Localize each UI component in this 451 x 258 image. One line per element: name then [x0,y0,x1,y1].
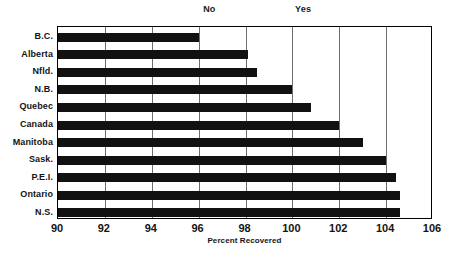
y-axis-label: Ontario [0,189,53,199]
bar [58,103,311,112]
plot-area [57,26,432,219]
bar [58,68,257,77]
y-axis-label: P.E.I. [0,172,53,182]
x-axis-tick-label: 92 [98,222,110,234]
chart-annotation: Yes [295,4,311,14]
bar [58,173,396,182]
x-axis-title: Percent Recovered [57,236,432,245]
y-axis-label: Alberta [0,49,53,59]
y-axis-label: Quebec [0,101,53,111]
y-axis-label: N.S. [0,207,53,217]
x-axis-tick-label: 98 [238,222,250,234]
x-axis-tick-label: 106 [423,222,441,234]
x-axis-tick-label: 100 [282,222,300,234]
y-axis-label: Canada [0,119,53,129]
x-axis-tick-label: 102 [329,222,347,234]
x-axis-tick-label: 104 [376,222,394,234]
bar [58,50,248,59]
bar [58,156,386,165]
bars-layer [58,27,431,218]
y-axis-label: Nfld. [0,66,53,76]
x-axis-tick-labels: 9092949698100102104106 [0,222,451,236]
x-axis-tick-label: 94 [145,222,157,234]
bar [58,121,339,130]
chart-annotation: No [203,4,215,14]
bar [58,208,400,217]
y-axis-label: Sask. [0,154,53,164]
y-axis-label: N.B. [0,84,53,94]
y-axis-label: Manitoba [0,137,53,147]
bar-chart: NoYes B.C.AlbertaNfld.N.B.QuebecCanadaMa… [0,0,451,258]
bar [58,191,400,200]
x-axis-tick-label: 96 [192,222,204,234]
bar [58,33,199,42]
bar [58,85,292,94]
bar [58,138,363,147]
y-axis-label: B.C. [0,31,53,41]
x-axis-tick-label: 90 [51,222,63,234]
y-axis-labels: B.C.AlbertaNfld.N.B.QuebecCanadaManitoba… [0,26,53,219]
